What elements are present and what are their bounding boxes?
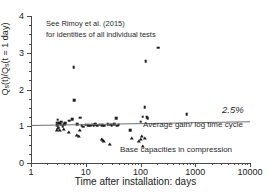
x-tick-minor	[234, 163, 235, 165]
x-tick-minor	[128, 163, 129, 165]
x-tick-minor	[183, 163, 184, 165]
data-point-square	[185, 113, 188, 116]
data-point-square	[129, 129, 132, 132]
x-tick-minor	[77, 163, 78, 165]
data-point-triangle	[67, 130, 71, 133]
x-tick-minor	[124, 163, 125, 165]
x-tick-minor	[187, 163, 188, 165]
data-point-square	[71, 118, 74, 121]
data-point-triangle	[78, 128, 82, 131]
data-point-square	[73, 99, 76, 102]
reference-note-line2: for identities of all individual tests	[46, 30, 156, 40]
trend-percent-label: 2.5%	[222, 104, 244, 115]
x-tick-minor	[135, 163, 136, 165]
x-tick-minor	[69, 163, 70, 165]
x-tick-minor	[179, 163, 180, 165]
data-point-square	[79, 116, 82, 119]
y-axis-title: Qs(t)/Qs(t = 1 day)	[0, 52, 10, 66]
data-point-triangle	[130, 137, 134, 140]
y-tick-label-4: 4	[19, 12, 24, 21]
y-title-sub1: s	[3, 85, 10, 89]
data-point-triangle	[102, 140, 106, 143]
scatter-chart: 01234 110100100010000 Time after install…	[0, 0, 271, 193]
x-tick-minor	[228, 163, 229, 165]
x-tick-minor	[132, 163, 133, 165]
data-point-square	[57, 118, 60, 121]
y-title-mid: (t)/Q	[0, 67, 10, 85]
data-point-triangle	[77, 135, 81, 138]
x-tick-minor	[83, 163, 84, 165]
y-title-pre: Q	[0, 88, 10, 95]
x-tick-minor	[190, 163, 191, 165]
data-point-square	[72, 66, 75, 69]
data-point-square	[144, 60, 147, 63]
data-point-square	[144, 106, 147, 109]
x-tick-minor	[238, 163, 239, 165]
data-point-square	[115, 117, 118, 120]
x-tick-minor	[74, 163, 75, 165]
y-tick-label-2: 2	[19, 85, 24, 94]
reference-note-line1: See Rimoy et al. (2015)	[46, 19, 125, 29]
x-tick-minor	[57, 163, 58, 165]
data-point-square	[141, 115, 144, 118]
y-tick-label-3: 3	[19, 48, 24, 57]
x-tick-minor	[157, 163, 158, 165]
x-tick-minor	[80, 163, 81, 165]
x-axis-title: Time after installation: days	[0, 176, 271, 187]
x-tick-minor	[138, 163, 139, 165]
x-tick-minor	[221, 163, 222, 165]
x-tick-minor	[193, 163, 194, 165]
x-tick-minor	[212, 163, 213, 165]
y-tick-label-1: 1	[19, 122, 24, 131]
x-tick-minor	[173, 163, 174, 165]
x-tick-minor	[102, 163, 103, 165]
x-tick-minor	[112, 163, 113, 165]
data-point-triangle	[108, 143, 112, 146]
base-capacities-label: Base capacities in compression	[120, 145, 232, 154]
x-tick-minor	[167, 163, 168, 165]
x-tick-minor	[64, 163, 65, 165]
y-title-post: (t = 1 day)	[0, 23, 10, 64]
data-point-triangle	[62, 127, 66, 130]
x-tick-minor	[247, 163, 248, 165]
x-tick-minor	[242, 163, 243, 165]
data-point-triangle	[143, 136, 147, 139]
average-gain-label: Average gain/ log time cycle	[143, 120, 243, 129]
x-tick-minor	[47, 163, 48, 165]
y-tick-label-0: 0	[19, 159, 24, 168]
x-tick-minor	[119, 163, 120, 165]
data-point-square	[157, 46, 160, 49]
x-tick-minor	[245, 163, 246, 165]
y-title-sub2: s	[3, 63, 10, 67]
